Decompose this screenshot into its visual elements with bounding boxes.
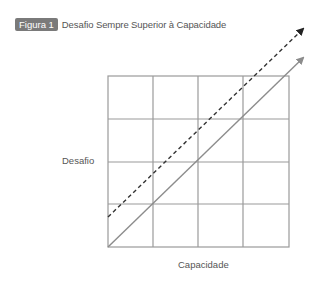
challenge-capacity-diagram bbox=[0, 0, 322, 285]
x-axis-label: Capacidade bbox=[178, 259, 229, 270]
solid-diagonal-arrow bbox=[108, 58, 303, 247]
y-axis-label: Desafio bbox=[62, 155, 94, 166]
dashed-diagonal-arrow bbox=[108, 29, 303, 217]
